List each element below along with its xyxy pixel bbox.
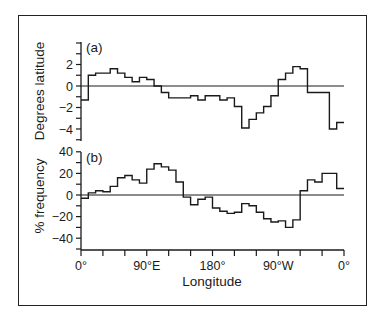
panel-b-y-axis: 40200−20−40 [52,145,81,250]
panel-b-y-axis-title: % frequency [32,158,47,233]
panel-a-y-axis: 20−2−4 [59,42,81,141]
y-tick-label: 20 [59,167,73,181]
x-axis: 0°90°E180°90°W0° [75,250,350,273]
y-tick-label: −40 [52,232,73,246]
y-tick-label: 2 [66,58,73,72]
panel-a: (a) Degrees latitude 20−2−4 [32,40,344,141]
panel-a-step-series [81,67,344,129]
x-axis-title: Longitude [182,274,241,289]
y-tick-label: −2 [59,101,73,115]
panel-a-y-axis-title: Degrees latitude [32,42,47,140]
x-tick-label: 0° [338,259,350,273]
x-tick-label: 0° [75,259,87,273]
y-tick-label: 0 [66,80,73,94]
y-tick-label: −4 [59,123,73,137]
x-tick-label: 180° [200,259,226,273]
y-tick-label: −20 [52,210,73,224]
chart-canvas: (a) Degrees latitude 20−2−4 (b) % freque… [0,0,386,324]
y-tick-label: 0 [66,189,73,203]
y-tick-label: 40 [59,145,73,159]
x-tick-label: 90°W [263,259,294,273]
x-tick-label: 90°E [133,259,160,273]
panel-b-tag: (b) [86,150,103,165]
panel-b: (b) % frequency 40200−20−40 [32,145,344,250]
panel-a-tag: (a) [86,40,103,55]
